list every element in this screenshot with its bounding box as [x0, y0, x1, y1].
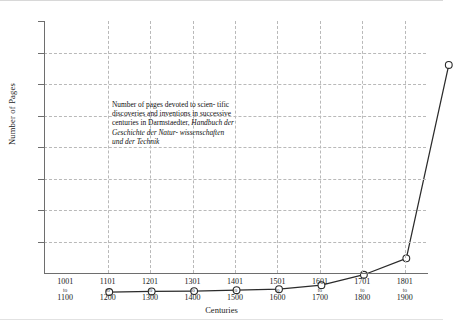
y-tick-mark [38, 53, 44, 54]
data-point-marker: 1701 to 1800: 110 [403, 255, 410, 262]
series-layer: 1001 to 1100: 31101 to 1200: 51201 to 13… [44, 21, 457, 320]
plot-area: 1001 to 1100: 31101 to 1200: 51201 to 13… [44, 21, 426, 273]
y-tick-mark [38, 242, 44, 243]
x-axis-title: Centuries [0, 305, 443, 315]
y-tick-mark [38, 84, 44, 85]
y-tick-mark [38, 179, 44, 180]
annotation-line-1: Number of pages devoted to scien- [112, 100, 215, 109]
x-axis-line [44, 273, 428, 274]
data-point-marker: 1801 to 1900: 724 [445, 62, 452, 69]
y-axis-line [44, 21, 45, 273]
chart-annotation: Number of pages devoted to scien- tific … [112, 100, 236, 146]
x-tick-label: 1801to1900 [378, 277, 432, 302]
y-tick-mark [38, 210, 44, 211]
y-tick-mark [38, 147, 44, 148]
y-axis-title: Number of Pages [7, 66, 17, 162]
x-tick-end: 1900 [378, 293, 432, 303]
series-line [109, 65, 449, 292]
x-tick-start: 1801 [378, 277, 432, 287]
y-tick-mark [38, 21, 44, 22]
y-tick-mark [38, 116, 44, 117]
